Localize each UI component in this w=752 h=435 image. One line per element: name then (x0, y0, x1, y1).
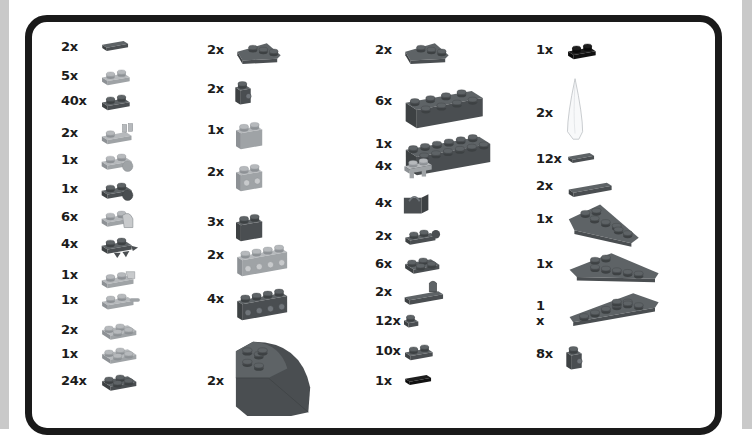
page-edge-right (742, 0, 752, 429)
part-quantity: 6x (61, 209, 78, 224)
part-quantity: 2x (207, 247, 224, 262)
brick-1x4-studs-side-icon (232, 239, 300, 275)
plate-with-towball-socket-icon (97, 263, 143, 289)
part-quantity: 1x (61, 152, 78, 167)
part-quantity: 1x (61, 267, 78, 282)
part-quantity: 2x (61, 125, 78, 140)
part-quantity: 1x (536, 211, 553, 226)
plate-1x2-with-clip-end-icon (400, 224, 448, 246)
wedge-round-corner-icon (232, 336, 316, 416)
part-quantity: 1x (207, 122, 224, 137)
plate-1x2-icon (563, 38, 607, 60)
part-quantity: 2x (207, 81, 224, 96)
bar-tapered-horn-icon (563, 73, 589, 143)
brick-1x2-icon (232, 208, 272, 240)
part-quantity: 24x (61, 373, 87, 388)
brick-1x2-studs-side-icon (232, 158, 272, 190)
part-quantity: 2x (207, 42, 224, 57)
part-quantity: 1x (61, 181, 78, 196)
part-quantity: 12x (375, 313, 401, 328)
plate-2x2-corner-icon (97, 318, 145, 342)
part-quantity: 10x (375, 343, 401, 358)
part-quantity: 2x (61, 39, 78, 54)
tile-1x2-icon (97, 35, 137, 53)
part-quantity: 1x (536, 256, 553, 271)
part-quantity: 8x (536, 346, 553, 361)
plate-with-clip-ring-icon (97, 205, 141, 231)
wedge-plate-2x3-icon (232, 38, 286, 64)
plate-1x2-jumper-icon (400, 339, 444, 361)
part-quantity: 2x (536, 178, 553, 193)
part-quantity: 2x (375, 42, 392, 57)
part-quantity: 1x (61, 292, 78, 307)
plate-with-bar-handle-icon (97, 288, 145, 312)
part-quantity: 2x (207, 164, 224, 179)
plate-with-spikes-icon (97, 232, 141, 258)
part-quantity: 6x (375, 256, 392, 271)
plate-1x1-icon (400, 309, 426, 327)
plate-with-ball-icon (97, 148, 141, 174)
part-quantity: 2x (536, 105, 553, 120)
part-quantity: 5x (61, 68, 78, 83)
brick-2x4-icon (400, 79, 492, 123)
part-quantity: 3x (207, 214, 224, 229)
part-quantity: 2x (375, 284, 392, 299)
part-quantity: 40x (61, 93, 87, 108)
plate-1x2-icon (97, 89, 141, 111)
brick-1x2-icon (232, 116, 272, 148)
hinge-clip-icon (400, 189, 434, 217)
tile-1x2-icon (400, 369, 440, 387)
brick-1x4-studs-side-icon (232, 283, 300, 319)
part-quantity: 4x (61, 236, 78, 251)
plate-2x2-icon (97, 342, 145, 366)
part-quantity: 2x (207, 373, 224, 388)
part-quantity: 4x (375, 158, 392, 173)
plate-1x2-with-clip-icon (97, 121, 141, 145)
part-quantity: 4x (375, 195, 392, 210)
plate-2x2-icon (97, 369, 145, 393)
plate-1x2-with-clips-icon (400, 154, 440, 180)
part-quantity: 2x (61, 322, 78, 337)
part-quantity: 6x (375, 93, 392, 108)
part-quantity: 1x (536, 42, 553, 57)
tile-1x2-icon (563, 147, 603, 165)
part-quantity: 4x (207, 291, 224, 306)
part-quantity: 1x (61, 346, 78, 361)
plate-1x2-icon (97, 64, 141, 86)
tile-1x4-icon (563, 174, 623, 200)
part-quantity: 2x (375, 228, 392, 243)
brick-1x1-with-stud-icon (563, 340, 589, 370)
part-quantity: 1 x (536, 298, 545, 328)
page-edge-left (0, 0, 9, 429)
part-quantity: 1x (375, 373, 392, 388)
plate-1x4-with-handle-icon (400, 276, 450, 306)
wedge-plate-3x6-icon (563, 199, 663, 245)
brick-1x1-with-stud-icon (232, 75, 258, 105)
part-quantity: 12x (536, 151, 562, 166)
part-quantity: 1x (375, 136, 392, 151)
wedge-plate-4x8-right-icon (563, 286, 667, 326)
wedge-plate-2x3-icon (400, 38, 454, 64)
wedge-plate-4x8-left-icon (563, 246, 667, 286)
plate-with-ball-icon (97, 177, 141, 203)
plate-2x2-icon (400, 252, 448, 276)
